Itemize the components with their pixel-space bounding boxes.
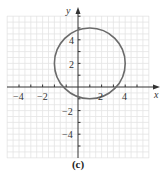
y-tick-label: −4 [62, 129, 73, 140]
x-axis-label: x [153, 89, 159, 100]
y-tick-label: −2 [62, 106, 73, 117]
x-tick-label: 2 [98, 91, 103, 102]
y-axis-arrow-icon [76, 7, 81, 14]
y-axis-label: y [65, 5, 71, 16]
x-tick-label: 4 [122, 91, 127, 102]
figure-caption: (c) [0, 158, 156, 170]
x-tick-label: −4 [13, 91, 24, 102]
x-tick-label: −2 [37, 91, 48, 102]
y-tick-label: 2 [69, 59, 74, 70]
y-tick-label: 4 [69, 35, 74, 46]
chart-canvas: y x −4 −2 2 4 4 2 −2 −4 [0, 0, 166, 175]
